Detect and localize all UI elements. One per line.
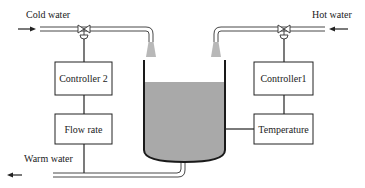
cold-water-spray xyxy=(146,42,156,57)
controller1-box: Controller1 xyxy=(254,62,313,95)
cold-water-label: Cold water xyxy=(26,9,71,20)
warm-water-arrow-icon xyxy=(7,173,22,178)
process-diagram: Cold water Controller 2 Flow rate Warm w… xyxy=(0,0,365,188)
hot-water-arrow-icon xyxy=(329,27,348,32)
hot-water-pipe xyxy=(214,27,325,42)
temperature-label: Temperature xyxy=(258,124,309,135)
cold-water-pipe xyxy=(40,27,153,42)
hot-water-label: Hot water xyxy=(312,9,352,20)
flow-rate-label: Flow rate xyxy=(64,124,103,135)
mixing-tank xyxy=(144,60,225,162)
controller1-label: Controller1 xyxy=(260,73,306,84)
hot-water-spray xyxy=(211,42,221,57)
warm-water-label: Warm water xyxy=(24,153,74,164)
flow-rate-box: Flow rate xyxy=(55,114,112,144)
controller2-box: Controller 2 xyxy=(55,62,112,95)
temperature-box: Temperature xyxy=(254,114,313,144)
controller2-label: Controller 2 xyxy=(59,73,108,84)
cold-water-arrow-icon xyxy=(18,27,36,32)
